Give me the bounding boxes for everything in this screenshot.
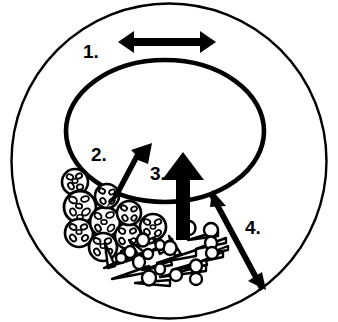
- outer-circle: [12, 4, 327, 319]
- bacteria-oval: [143, 249, 153, 259]
- bacteria-oval: [164, 241, 177, 255]
- granular-cell: [117, 201, 141, 225]
- bacteria-oval: [190, 260, 202, 273]
- label-4: 4.: [245, 217, 261, 238]
- diagram-canvas: 1. 2. 3. 4.: [0, 0, 338, 322]
- cross-section-diagram: 1. 2. 3. 4.: [0, 0, 338, 322]
- arrow-1-bidirectional: [118, 31, 216, 53]
- bacteria-oval: [142, 271, 156, 286]
- bacteria-oval: [206, 247, 218, 259]
- bacteria-oval: [204, 223, 218, 237]
- bacteria-oval: [156, 240, 165, 250]
- bacteria-oval: [190, 273, 202, 285]
- bacteria-oval: [116, 253, 126, 263]
- label-1: 1.: [83, 41, 99, 62]
- granular-cell: [89, 233, 117, 261]
- bacteria-oval: [170, 269, 182, 281]
- label-3: 3.: [150, 163, 166, 184]
- label-2: 2.: [91, 144, 107, 165]
- bacteria-oval: [155, 264, 165, 275]
- bacteria-oval: [137, 234, 149, 247]
